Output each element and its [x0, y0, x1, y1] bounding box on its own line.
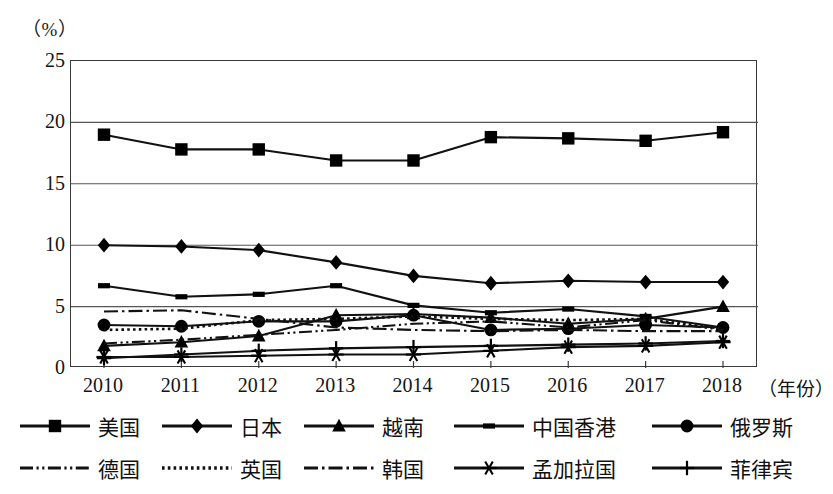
legend-item[interactable]: 韩国: [302, 448, 424, 488]
legend-item[interactable]: 日本: [160, 406, 282, 446]
legend-item[interactable]: 中国香港: [452, 406, 616, 446]
legend-marker-circle-icon: [650, 414, 724, 438]
legend-item[interactable]: 德国: [18, 448, 140, 488]
legend-item[interactable]: 孟加拉国: [452, 448, 616, 488]
x-tick-label: 2013: [315, 374, 355, 397]
legend-marker-diamond-icon: [160, 414, 234, 438]
legend-marker-plus-icon: [650, 456, 724, 480]
legend-label: 中国香港: [532, 411, 616, 441]
series-4: [98, 309, 730, 337]
y-tick-label: 20: [5, 110, 65, 133]
legend-label: 韩国: [382, 453, 424, 483]
chart-legend: 美国日本越南中国香港俄罗斯 德国英国韩国孟加拉国菲律宾: [0, 404, 833, 490]
legend-item[interactable]: 英国: [160, 448, 282, 488]
chart-canvas: [71, 61, 758, 368]
series-0: [98, 126, 729, 167]
legend-label: 日本: [240, 411, 282, 441]
legend-item[interactable]: 越南: [302, 406, 424, 446]
y-axis-unit-label: （%）: [22, 14, 77, 41]
legend-label: 德国: [98, 453, 140, 483]
y-tick-label: 15: [5, 171, 65, 194]
legend-row-1: 美国日本越南中国香港俄罗斯: [0, 406, 833, 446]
legend-label: 孟加拉国: [532, 453, 616, 483]
y-tick-label: 10: [5, 233, 65, 256]
legend-label: 美国: [98, 411, 140, 441]
x-tick-label: 2010: [83, 374, 123, 397]
legend-marker-minirect-icon: [452, 414, 526, 438]
x-tick-label: 2015: [470, 374, 510, 397]
x-tick-label: 2018: [702, 374, 742, 397]
chart-page: （%） 0510152025 2010201120122013201420152…: [0, 0, 833, 494]
x-tick-label: 2017: [625, 374, 665, 397]
legend-marker-square-icon: [18, 414, 92, 438]
legend-marker-none-icon: [18, 456, 92, 480]
legend-item[interactable]: 美国: [18, 406, 140, 446]
legend-label: 英国: [240, 453, 282, 483]
x-tick-label: 2012: [238, 374, 278, 397]
x-axis-title: （年份）: [758, 374, 833, 401]
legend-label: 菲律宾: [730, 453, 793, 483]
legend-marker-none-icon: [302, 456, 376, 480]
legend-marker-triangle-icon: [302, 414, 376, 438]
legend-row-2: 德国英国韩国孟加拉国菲律宾: [0, 448, 833, 488]
x-tick-label: 2016: [547, 374, 587, 397]
legend-item[interactable]: 菲律宾: [650, 448, 793, 488]
x-tick-label: 2011: [161, 374, 200, 397]
legend-label: 越南: [382, 411, 424, 441]
legend-marker-none-icon: [160, 456, 234, 480]
y-tick-label: 25: [5, 49, 65, 72]
x-tick-label: 2014: [393, 374, 433, 397]
legend-label: 俄罗斯: [730, 411, 793, 441]
legend-marker-asterisk-icon: [452, 456, 526, 480]
legend-item[interactable]: 俄罗斯: [650, 406, 793, 446]
y-tick-label: 5: [5, 294, 65, 317]
plot-area: [70, 60, 757, 367]
y-tick-label: 0: [5, 356, 65, 379]
